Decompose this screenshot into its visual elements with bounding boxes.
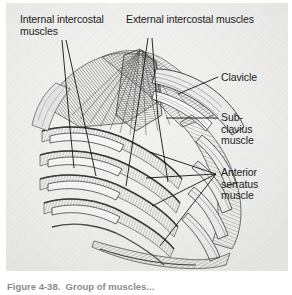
- leader-serratus-1: [150, 152, 216, 174]
- label-internal-intercostal-muscles: Internal intercostal muscles: [20, 14, 104, 37]
- label-clavicle: Clavicle: [221, 72, 257, 84]
- leader-internal-2: [66, 40, 96, 176]
- leader-lines: [0, 0, 292, 295]
- leader-internal-1: [62, 40, 74, 168]
- label-external-intercostal-muscles: External intercostal muscles: [126, 14, 254, 26]
- figure-caption: Figure 4-38. Group of muscles...: [7, 281, 154, 292]
- leader-clavicle: [178, 77, 218, 94]
- leader-serratus-2: [146, 174, 216, 178]
- leader-serratus-4: [160, 174, 216, 246]
- label-subclavius-muscle: Sub- clavius muscle: [221, 112, 254, 147]
- leader-serratus-3: [152, 174, 216, 206]
- label-anterior-serratus-muscle: Anterior serratus muscle: [221, 167, 258, 202]
- leader-external-1: [126, 38, 148, 186]
- figure-root: Internal intercostal muscles External in…: [0, 0, 292, 295]
- leader-external-2: [152, 38, 168, 182]
